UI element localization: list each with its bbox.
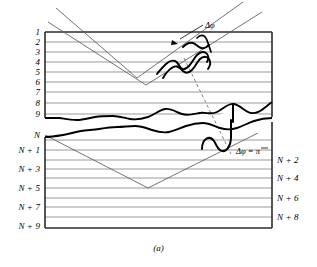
lower-slab xyxy=(45,120,272,228)
figure-caption: (a) xyxy=(0,243,317,253)
plane-label-lower-left-1: N + 1 xyxy=(18,146,40,155)
plane-label-upper-4: 5 xyxy=(35,68,40,77)
plane-label-lower-left-2: N + 3 xyxy=(18,165,40,174)
annotation-1: Δφ = π xyxy=(236,147,260,156)
plane-label-upper-1: 2 xyxy=(35,38,40,47)
annotation-0: Δφ xyxy=(205,21,215,30)
plane-label-lower-left-0: N xyxy=(34,131,40,140)
plane-label-upper-6: 7 xyxy=(35,88,40,97)
plane-label-upper-5: 6 xyxy=(35,78,40,87)
plane-label-upper-3: 4 xyxy=(35,58,40,67)
plane-label-upper-2: 3 xyxy=(35,48,40,57)
plane-label-lower-left-3: N + 5 xyxy=(18,184,40,193)
plane-label-upper-8: 9 xyxy=(35,110,40,119)
plane-label-lower-right-1: N + 4 xyxy=(277,174,299,183)
plane-label-lower-left-4: N + 7 xyxy=(18,203,40,212)
plane-label-lower-right-3: N + 8 xyxy=(277,213,299,222)
lattice-phase-diagram xyxy=(0,0,317,267)
plane-label-lower-right-2: N + 6 xyxy=(277,194,299,203)
plane-label-lower-right-0: N + 2 xyxy=(277,156,299,165)
plane-label-upper-0: 1 xyxy=(35,28,40,37)
lower-slab-background xyxy=(45,120,272,228)
plane-label-upper-7: 8 xyxy=(35,99,40,108)
plane-label-lower-left-5: N + 9 xyxy=(18,222,40,231)
